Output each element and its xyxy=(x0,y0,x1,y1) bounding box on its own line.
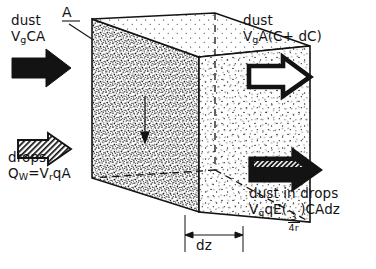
label-dust-in-v: V xyxy=(11,28,20,44)
fraction-denominator: 4r xyxy=(288,222,300,233)
label-drops-in: drops QW=VrqA xyxy=(8,150,71,182)
label-dust-in-line2: VgCA xyxy=(11,29,45,45)
label-dust-drops-line2: VgqE(34r)CAdz xyxy=(249,202,340,233)
fraction-numerator: 3 xyxy=(290,212,298,222)
label-drops-v: V xyxy=(40,165,49,181)
area-label: A xyxy=(62,5,72,20)
label-dust-out-v: V xyxy=(243,28,252,44)
label-dust-in: dust VgCA xyxy=(11,13,45,45)
figure-canvas: A dust VgCA dust VgA(C+ dC) drops QW=Vrq… xyxy=(0,0,376,269)
label-dust-drops-tail: )CAdz xyxy=(300,201,340,217)
label-dust-out-line1: dust xyxy=(243,13,322,27)
label-dust-drops-v: V xyxy=(249,201,258,217)
dz-dimension xyxy=(185,215,243,252)
label-drops-qsub: W xyxy=(19,171,28,182)
label-drops-line2: QW=VrqA xyxy=(8,166,71,182)
dz-label: dz xyxy=(196,238,212,252)
label-drops-rest: qA xyxy=(53,165,71,181)
label-dust-drops-line1: dust in drops xyxy=(249,186,340,200)
label-dust-out-line2: VgA(C+ dC) xyxy=(243,29,322,45)
label-drops-line1: drops xyxy=(8,150,71,164)
label-dust-in-line1: dust xyxy=(11,13,45,27)
label-dust-out: dust VgA(C+ dC) xyxy=(243,13,322,45)
label-drops-eq: = xyxy=(28,165,39,181)
label-dust-in-rest: CA xyxy=(26,28,45,44)
label-dust-out-rest: A(C+ dC) xyxy=(258,28,322,44)
area-leader-line xyxy=(62,21,92,39)
fraction-three-over-four-r: 34r xyxy=(288,212,300,233)
label-dust-in-drops: dust in drops VgqE(34r)CAdz xyxy=(249,186,340,233)
arrow-dust-in xyxy=(12,49,71,87)
label-drops-q: Q xyxy=(8,165,19,181)
label-dust-drops-mid: qE( xyxy=(264,201,287,217)
